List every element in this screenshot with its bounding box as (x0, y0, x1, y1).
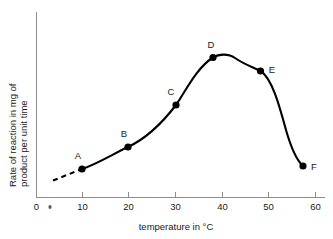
chart-canvas: Rate of reaction in mg of product per un… (0, 0, 333, 239)
x-axis-ticks (37, 192, 316, 198)
data-point-label-e: E (269, 64, 275, 75)
x-tick-label-50: 50 (263, 201, 274, 212)
x-tick-label-10: 10 (77, 201, 88, 212)
y-axis-title-line1: Rate of reaction in mg of (7, 83, 18, 187)
x-tick-label-40: 40 (217, 201, 228, 212)
data-point-label-d: D (208, 39, 215, 50)
data-point-label-a: A (75, 150, 82, 161)
x-tick-label-60: 60 (310, 201, 321, 212)
x-axis-title: temperature in °C (139, 221, 214, 232)
data-point-label-c: C (168, 86, 175, 97)
data-point-b (124, 143, 131, 150)
data-point-a (78, 165, 85, 172)
data-point-labels: A B C D E F (75, 39, 317, 172)
data-point-c (172, 101, 179, 108)
data-point-label-f: F (311, 161, 317, 172)
y-axis-title-line2: product per unit time (18, 100, 29, 187)
x-tick-label-20: 20 (123, 201, 134, 212)
data-point-d (209, 54, 216, 61)
x-tick-label-30: 30 (170, 201, 181, 212)
y-axis-title: Rate of reaction in mg of product per un… (7, 83, 29, 187)
data-point-e (257, 67, 264, 74)
x-axis-tick-labels: 0 10 20 30 40 50 60 (34, 201, 321, 212)
curve-dashed-extension (53, 169, 82, 181)
x-tick-label-0: 0 (34, 201, 39, 212)
data-point-f (299, 162, 306, 169)
reaction-rate-chart: Rate of reaction in mg of product per un… (0, 0, 333, 239)
data-point-label-b: B (121, 128, 127, 139)
scan-speck (48, 205, 51, 209)
